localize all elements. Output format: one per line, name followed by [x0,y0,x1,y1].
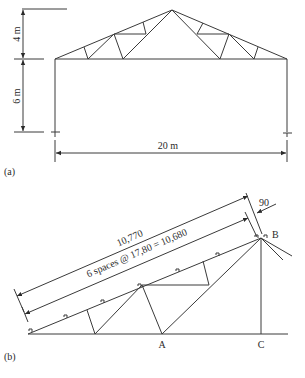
node-c-label: C [258,339,265,350]
web-members [87,238,261,334]
dim-label-6m: 6 m [11,88,22,104]
node-a-label: A [158,339,166,350]
dim-label-offset: 90 [259,197,269,208]
figure-b-truss-detail: A B C 10,770 6 spaces @ 17,80 = 10,680 9… [4,193,292,363]
figure-b-label: (b) [4,351,16,363]
node-b-label: B [272,229,279,240]
right-web-members [172,10,258,59]
figure-a-portal-frame: 4 m 6 m 20 m (a) [4,9,292,178]
dim-line-total [17,196,248,296]
truss-diagram: 4 m 6 m 20 m (a) [0,0,305,378]
dim-label-span: 20 m [158,140,179,151]
left-web-members [84,10,172,59]
figure-a-label: (a) [4,166,15,178]
dim-label-4m: 4 m [11,26,22,42]
